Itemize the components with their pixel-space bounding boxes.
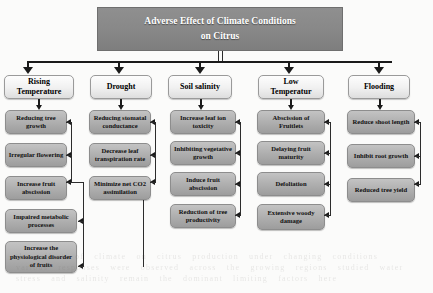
column-header-low-temperature[interactable]: Low Temperatur [258, 75, 324, 99]
col1-lead-node5 [78, 266, 84, 267]
node-increase-leaf-ion-toxicity-label: Increase leaf ion toxicity [173, 114, 233, 131]
node-impaired-metabolic-processes-label: Impaired metabolic processes [8, 213, 74, 230]
diagram-title-line1: Adverse Effect of Climate Conditions [144, 14, 295, 29]
node-increase-fruit-abscission-label: Increase fruit abscission [8, 180, 64, 197]
col3-lead-node4 [235, 215, 241, 216]
col3-lead-node1 [235, 122, 241, 123]
col4-spine [330, 122, 331, 215]
node-impaired-metabolic-processes[interactable]: Impaired metabolic processes [5, 209, 77, 233]
column-header-rising-temperature[interactable]: Rising Temperature [4, 75, 74, 99]
node-increase-physiological-disorder[interactable]: Increase the physiological disorder of f… [5, 241, 77, 273]
col2-spine-upper [155, 122, 156, 182]
column-header-drought[interactable]: Drought [90, 75, 152, 99]
col5-lead-node3 [414, 184, 421, 185]
col5-spine [420, 122, 421, 184]
node-reducing-stomatal-conductance[interactable]: Reducing stomatal conductance [89, 110, 151, 134]
column-header-soil-salinity[interactable]: Soil salinity [168, 75, 232, 99]
col5-lead-node1 [414, 122, 421, 123]
node-reducing-tree-growth[interactable]: Reducing tree growth [5, 110, 67, 134]
node-irregular-flowering[interactable]: Irregular flowering [5, 143, 67, 167]
node-reduction-of-tree-productivity-label: Reduction of tree productivity [173, 208, 233, 225]
column-header-low-temperature-line2: Temperatur [270, 87, 311, 97]
column-header-rising-temperature-line1: Rising [17, 77, 61, 87]
column-header-soil-salinity-line1: Soil salinity [180, 82, 220, 92]
bus-arrow-col3 [195, 67, 205, 74]
node-minimize-net-co2-assimilation[interactable]: Minimize net CO2 assimilation [89, 176, 151, 200]
node-inhibit-root-growth-label: Inhibit root growth [350, 152, 412, 160]
col1-lead-node3 [66, 182, 72, 183]
climate-effect-flowchart: Adverse Effect of Climate Conditions on … [0, 0, 433, 293]
bus-arrow-col2 [114, 67, 124, 74]
node-induce-fruit-abscission[interactable]: Induce fruit abscission [170, 172, 236, 196]
node-abscission-of-fruitlets-label: Abscission of Fruitlets [260, 114, 322, 131]
bus-arrow-col5 [374, 67, 384, 74]
node-increase-physiological-disorder-label: Increase the physiological disorder of f… [8, 244, 74, 269]
node-reduced-tree-yield[interactable]: Reduced tree yield [347, 178, 415, 202]
node-reduce-shoot-length[interactable]: Reduce shoot length [347, 110, 415, 134]
node-delaying-fruit-maturity[interactable]: Delaying fruit maturity [257, 141, 325, 165]
col4-lead-node3 [324, 184, 331, 185]
bus-arrow-col1 [23, 67, 33, 74]
node-abscission-of-fruitlets[interactable]: Abscission of Fruitlets [257, 110, 325, 134]
node-increase-fruit-abscission[interactable]: Increase fruit abscission [5, 176, 67, 200]
node-extensive-woody-damage-label: Extensive woody damage [260, 209, 322, 226]
diagram-title-line2: on Citrus [201, 29, 239, 44]
node-minimize-net-co2-assimilation-label: Minimize net CO2 assimilation [92, 180, 148, 197]
col2-lead-node1 [150, 122, 156, 123]
node-inhibiting-vegetative-growth[interactable]: Inhibiting vegetative growth [170, 141, 236, 165]
column-header-drought-line1: Drought [107, 82, 136, 92]
node-delaying-fruit-maturity-label: Delaying fruit maturity [260, 145, 322, 162]
node-defoliation-label: Defoliation [260, 180, 322, 188]
node-decrease-leaf-transpiration-rate-label: Decrease leaf transpiration rate [92, 147, 148, 164]
column-header-rising-temperature-line2: Temperature [17, 87, 61, 97]
col2-lead-node2 [150, 155, 156, 156]
column-header-flooding[interactable]: Flooding [348, 75, 410, 99]
col3-spine [240, 122, 241, 215]
col1-spine-lower [83, 182, 84, 267]
col3-lead-node2 [235, 153, 241, 154]
node-increase-leaf-ion-toxicity[interactable]: Increase leaf ion toxicity [170, 110, 236, 134]
column-header-low-temperature-line1: Low [270, 77, 311, 87]
column-header-flooding-line1: Flooding [364, 82, 394, 92]
distribution-bus [28, 61, 392, 63]
bus-arrow-col4 [284, 67, 294, 74]
col4-lead-node1 [324, 122, 331, 123]
col1-spine-upper [71, 122, 72, 182]
col4-lead-node4 [324, 215, 331, 216]
col1-lead-node1 [66, 122, 72, 123]
col5-lead-node2 [414, 156, 421, 157]
node-inhibit-root-growth[interactable]: Inhibit root growth [347, 144, 415, 168]
diagram-title-box: Adverse Effect of Climate Conditions on … [97, 7, 343, 51]
col1-lead-node2 [66, 155, 72, 156]
col3-lead-node3 [235, 184, 241, 185]
col1-lead-node4 [78, 221, 84, 222]
node-induce-fruit-abscission-label: Induce fruit abscission [173, 176, 233, 193]
node-reduced-tree-yield-label: Reduced tree yield [350, 186, 412, 194]
node-inhibiting-vegetative-growth-label: Inhibiting vegetative growth [173, 145, 233, 162]
col4-lead-node2 [324, 153, 331, 154]
node-irregular-flowering-label: Irregular flowering [8, 151, 64, 159]
node-reducing-tree-growth-label: Reducing tree growth [8, 114, 64, 131]
node-reducing-stomatal-conductance-label: Reducing stomatal conductance [92, 114, 148, 131]
col2-lead-node3 [150, 182, 156, 183]
node-defoliation[interactable]: Defoliation [257, 172, 325, 196]
node-decrease-leaf-transpiration-rate[interactable]: Decrease leaf transpiration rate [89, 143, 151, 167]
node-reduction-of-tree-productivity[interactable]: Reduction of tree productivity [170, 204, 236, 228]
node-extensive-woody-damage[interactable]: Extensive woody damage [257, 204, 325, 230]
node-reduce-shoot-length-label: Reduce shoot length [350, 118, 412, 126]
